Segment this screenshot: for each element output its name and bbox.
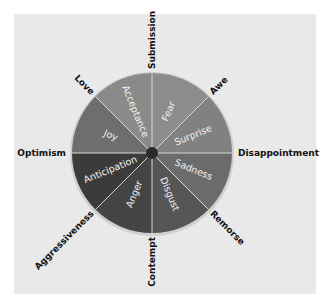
wheel-hub	[146, 147, 158, 159]
combined-emotion-optimism: Optimism	[17, 148, 66, 158]
combined-emotion-love: Love	[73, 73, 97, 97]
combined-emotion-submission: Submission	[147, 11, 157, 69]
combined-emotion-contempt: Contempt	[147, 236, 157, 286]
combined-emotion-remorse: Remorse	[208, 209, 247, 248]
emotion-wheel: FearSurpriseSadnessDisgustAngerAnticipat…	[0, 0, 330, 302]
combined-emotion-disappointment: Disappointment	[238, 148, 320, 158]
combined-emotion-awe: Awe	[208, 75, 230, 97]
combined-emotion-aggressiveness: Aggressiveness	[33, 209, 96, 272]
